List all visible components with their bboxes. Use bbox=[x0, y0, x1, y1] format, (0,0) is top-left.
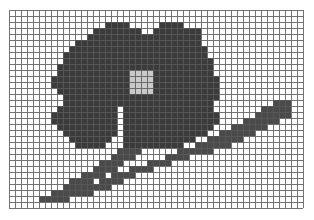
pixel-art-canvas bbox=[0, 0, 314, 220]
pixel-grid-svg bbox=[0, 0, 314, 220]
